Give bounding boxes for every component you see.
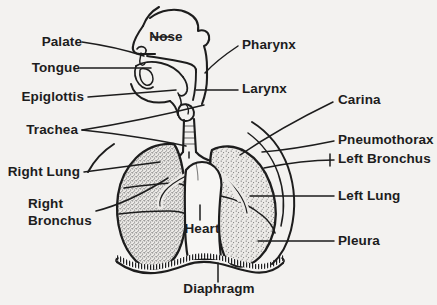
- label-right-bronchus-line1: Right: [28, 196, 118, 212]
- label-diaphragm: Diaphragm: [176, 281, 262, 297]
- leader-pneumothorax: [262, 141, 334, 152]
- label-left-bronchus: Left Bronchus: [338, 151, 437, 167]
- label-pneumothorax: Pneumothorax: [338, 132, 437, 148]
- label-trachea: Trachea: [0, 122, 78, 138]
- leader-pharynx: [205, 46, 238, 73]
- leader-epiglottis: [88, 90, 176, 97]
- label-right-bronchus-line2: Bronchus: [28, 213, 128, 229]
- label-left-lung: Left Lung: [338, 188, 424, 204]
- label-pharynx: Pharynx: [242, 37, 322, 53]
- label-pleura: Pleura: [338, 233, 408, 249]
- leader-palate: [82, 42, 144, 56]
- label-tongue: Tongue: [0, 60, 80, 76]
- label-nose: Nose: [144, 29, 188, 45]
- label-epiglottis: Epiglottis: [0, 89, 84, 105]
- label-carina: Carina: [338, 92, 408, 108]
- respiratory-system-diagram: Palate Tongue Epiglottis Trachea Right L…: [0, 0, 437, 305]
- label-heart: Heart: [178, 221, 226, 237]
- label-larynx: Larynx: [242, 81, 314, 97]
- label-palate: Palate: [0, 34, 82, 50]
- label-right-lung: Right Lung: [0, 164, 80, 180]
- leader-carina: [240, 102, 333, 155]
